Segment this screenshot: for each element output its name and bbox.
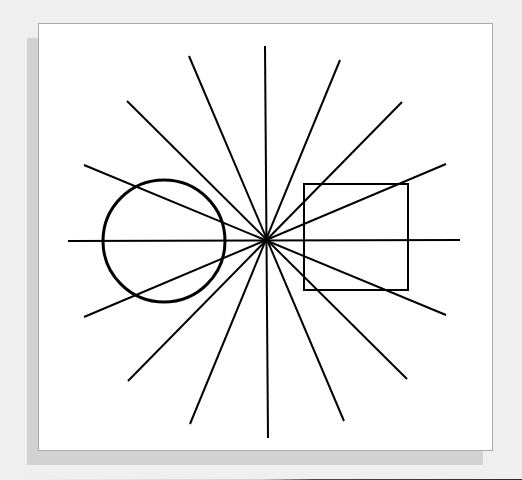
radiating-lines: [68, 46, 460, 438]
illusion-figure: [39, 24, 494, 452]
illusion-figure-panel: [38, 23, 493, 451]
square-shape: [304, 184, 408, 290]
